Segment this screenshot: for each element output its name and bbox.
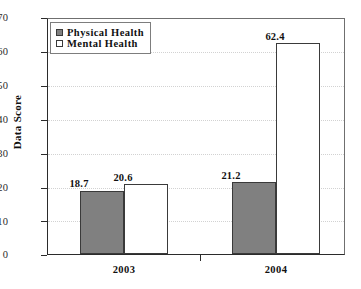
bar-2004-mental-health[interactable] (276, 43, 320, 255)
bar-chart: Data Score 70 60 50 40 30 20 10 0 18.7 2… (0, 0, 361, 289)
x-tick-label-2003: 2003 (89, 264, 159, 275)
x-tick-mark-center (200, 255, 201, 261)
plot-area (47, 18, 345, 255)
x-tick-label-2004: 2004 (241, 264, 311, 275)
bar-value-label-2004-physical: 21.2 (204, 170, 258, 181)
y-axis-title: Data Score (11, 77, 23, 167)
bar-2004-physical-health[interactable] (232, 182, 276, 254)
empty-white-square-icon (56, 40, 63, 47)
y-tick-label-20: 20 (0, 183, 8, 194)
y-tick-label-70: 70 (0, 13, 8, 24)
y-tick-label-30: 30 (0, 149, 8, 160)
bar-2003-physical-health[interactable] (80, 191, 124, 254)
bar-value-label-2004-mental: 62.4 (248, 31, 302, 42)
y-tick-label-60: 60 (0, 47, 8, 58)
y-tick-label-40: 40 (0, 115, 8, 126)
bar-value-label-2003-mental: 20.6 (96, 172, 150, 183)
chart-legend: Physical Health Mental Health (50, 22, 151, 54)
legend-item-physical-health[interactable]: Physical Health (56, 27, 144, 38)
bar-2003-mental-health[interactable] (124, 184, 168, 254)
y-tick-label-0: 0 (0, 250, 8, 261)
legend-item-mental-health[interactable]: Mental Health (56, 38, 144, 49)
filled-gray-square-icon (56, 29, 63, 36)
legend-label-physical-health: Physical Health (67, 27, 144, 38)
y-tick-mark-0 (41, 255, 47, 256)
legend-label-mental-health: Mental Health (67, 38, 138, 49)
y-tick-label-10: 10 (0, 217, 8, 228)
y-tick-label-50: 50 (0, 81, 8, 92)
